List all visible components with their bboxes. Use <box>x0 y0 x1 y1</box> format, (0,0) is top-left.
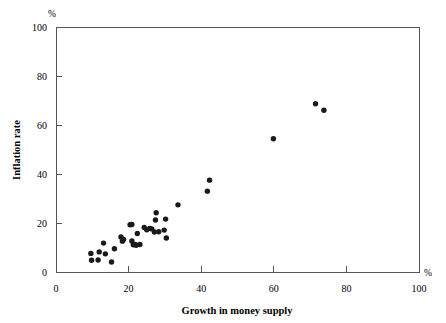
data-point <box>137 242 142 247</box>
y-tick-label: 80 <box>37 71 47 82</box>
data-point <box>207 177 212 182</box>
y-tick-label: 100 <box>32 22 47 33</box>
data-point <box>164 235 169 240</box>
data-point <box>161 227 166 232</box>
y-tick-label: 60 <box>37 120 47 131</box>
data-point <box>156 229 161 234</box>
x-axis-tick-labels: 020406080100 <box>54 283 427 294</box>
chart-canvas: 020406080100 020406080100 % % Growth in … <box>0 0 446 323</box>
data-points-layer <box>88 101 326 265</box>
scatter-plot-figure: 020406080100 020406080100 % % Growth in … <box>0 0 446 323</box>
y-tick-label: 40 <box>37 169 47 180</box>
data-point <box>103 251 108 256</box>
x-tick-label: 80 <box>341 283 351 294</box>
x-tick-label: 40 <box>196 283 206 294</box>
data-point <box>121 237 126 242</box>
data-point <box>88 251 93 256</box>
x-axis-unit-symbol: % <box>424 268 432 278</box>
y-axis-title: Inflation rate <box>11 120 22 180</box>
data-point <box>101 240 106 245</box>
data-point <box>153 210 158 215</box>
data-point <box>96 249 101 254</box>
x-axis-title: Growth in money supply <box>182 305 294 316</box>
y-axis-ticks <box>56 76 62 223</box>
data-point <box>153 217 158 222</box>
data-point <box>271 136 276 141</box>
data-point <box>95 257 100 262</box>
plot-frame <box>56 27 419 272</box>
data-point <box>129 222 134 227</box>
data-point <box>109 259 114 264</box>
x-tick-label: 0 <box>54 283 59 294</box>
data-point <box>135 231 140 236</box>
data-point <box>321 108 326 113</box>
x-axis-ticks <box>129 266 347 272</box>
data-point <box>313 101 318 106</box>
data-point <box>112 246 117 251</box>
x-tick-label: 20 <box>124 283 134 294</box>
x-tick-label: 100 <box>412 283 427 294</box>
data-point <box>205 188 210 193</box>
y-tick-label: 20 <box>37 218 47 229</box>
y-axis-unit-symbol: % <box>48 9 56 19</box>
data-point <box>89 258 94 263</box>
data-point <box>163 216 168 221</box>
x-tick-label: 60 <box>269 283 279 294</box>
y-axis-tick-labels: 020406080100 <box>32 22 47 278</box>
data-point <box>175 202 180 207</box>
y-tick-label: 0 <box>42 267 47 278</box>
